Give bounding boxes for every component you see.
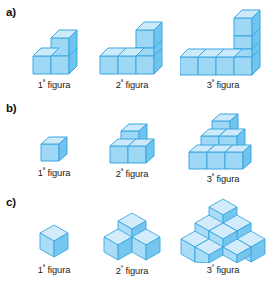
- section-b-figure-1-art: [39, 136, 69, 162]
- section-b: b) 1ª figura: [0, 98, 274, 193]
- section-c-figure-3: 3º figura: [176, 197, 270, 275]
- label-ordinal: º: [121, 264, 123, 271]
- label-word: figura: [126, 266, 149, 276]
- section-c-figure-1-label: 1ª figura: [14, 265, 94, 275]
- section-a-figure-2-label: 2ª figura: [89, 80, 175, 90]
- section-a-figure-2-art: [96, 14, 168, 76]
- section-a-figure-3: 3ª figura: [176, 5, 270, 90]
- label-word: figura: [126, 169, 149, 179]
- exercise-figure-sequences: a): [0, 0, 274, 289]
- section-a-figure-3-label: 3ª figura: [176, 80, 270, 90]
- section-c-figure-2-label: 2º figura: [89, 266, 175, 276]
- section-b-figure-3: 3ª figura: [176, 112, 270, 184]
- iso-cube-stack-c1: [38, 223, 70, 259]
- section-a-figure-1: 1ª figura: [14, 24, 94, 90]
- section-b-figure-2-label: 2ª figura: [89, 169, 175, 179]
- cube-stack-a3: [180, 5, 266, 76]
- label-word: figura: [126, 80, 149, 90]
- label-word: figura: [48, 265, 71, 275]
- cube-stack-a1: [25, 24, 83, 76]
- label-ordinal: ª: [121, 167, 123, 174]
- label-word: figura: [217, 80, 240, 90]
- section-a-figure-1-art: [25, 24, 83, 76]
- section-c-figure-1: 1ª figura: [14, 223, 94, 275]
- label-word: figura: [217, 174, 240, 184]
- section-b-figure-1: 1ª figura: [14, 136, 94, 178]
- section-c-figure-1-art: [38, 223, 70, 259]
- section-b-figure-1-label: 1ª figura: [14, 168, 94, 178]
- label-word: figura: [48, 80, 71, 90]
- label-ordinal: ª: [212, 78, 214, 85]
- iso-cube-stack-c3: [179, 197, 267, 263]
- section-c-figure-3-label: 3º figura: [176, 265, 270, 275]
- label-ordinal: ª: [43, 78, 45, 85]
- label-ordinal: ª: [121, 78, 123, 85]
- section-b-figure-3-label: 3ª figura: [176, 174, 270, 184]
- section-c-figures: 1ª figura: [0, 193, 274, 289]
- label-ordinal: ª: [43, 263, 45, 270]
- section-a-figure-3-art: [180, 5, 266, 76]
- section-b-figure-3-art: [183, 112, 263, 170]
- label-ordinal: º: [212, 263, 214, 270]
- section-a-figure-2: 2ª figura: [89, 14, 175, 90]
- iso-cube-stack-c2: [102, 211, 162, 261]
- section-b-figure-2-art: [104, 122, 160, 164]
- section-b-figure-2: 2ª figura: [89, 122, 175, 179]
- section-a-figure-1-label: 1ª figura: [14, 80, 94, 90]
- label-ordinal: ª: [43, 166, 45, 173]
- section-c: c) 1ª figura: [0, 193, 274, 289]
- section-a-figures: 1ª figura: [0, 0, 274, 98]
- section-c-figure-2-art: [102, 211, 162, 261]
- section-a: a): [0, 0, 274, 98]
- cube-stack-b1: [39, 136, 69, 162]
- section-c-figure-3-art: [179, 197, 267, 263]
- label-ordinal: ª: [212, 172, 214, 179]
- label-word: figura: [217, 265, 240, 275]
- cube-stack-a2: [96, 14, 168, 76]
- cube-stack-b3: [183, 112, 263, 170]
- cube-stack-b2: [104, 122, 160, 164]
- section-b-figures: 1ª figura: [0, 98, 274, 193]
- label-word: figura: [48, 168, 71, 178]
- section-c-figure-2: 2º figura: [89, 211, 175, 276]
